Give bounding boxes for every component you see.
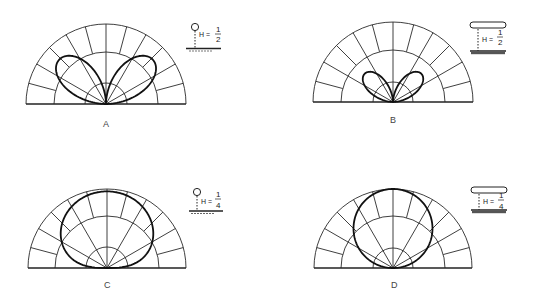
radiation-pattern-diagram: H = 1 2 H = 1 2 H = 1 4 H = 1 4 (0, 0, 535, 307)
grid-spoke (372, 25, 379, 52)
grid-spoke (119, 27, 126, 54)
grid-spoke (317, 248, 343, 255)
grid-spoke (443, 81, 470, 88)
grid-spoke (49, 47, 69, 67)
panel-c-label: C (104, 280, 111, 290)
grid-spoke (316, 81, 343, 88)
inset-b-horizontal-dipole-icon: H = 1 2 (470, 22, 506, 54)
panel-d-polar-plot (314, 189, 472, 268)
grid-spoke (443, 248, 469, 255)
grid-spoke (324, 62, 393, 102)
inset-b-height-label: H = (482, 36, 493, 43)
grid-spoke (373, 192, 380, 218)
grid-spoke (336, 45, 356, 65)
inset-d-fraction-numerator: 1 (499, 191, 504, 200)
inset-a-height-label: H = (199, 31, 210, 38)
grid-spoke (143, 47, 163, 67)
inset-c-fraction-numerator: 1 (216, 190, 221, 199)
grid-spoke (393, 200, 433, 268)
grid-spoke (107, 200, 147, 268)
inset-c-fraction-denominator: 4 (216, 201, 221, 210)
grid-spoke (107, 229, 175, 269)
panel-a-label: A (103, 119, 109, 129)
grid-spoke (31, 248, 57, 255)
grid-spoke (406, 192, 413, 218)
grid-spoke (106, 64, 175, 104)
grid-spoke (156, 83, 183, 90)
panel-b-polar-plot (313, 22, 473, 102)
grid-spoke (353, 33, 393, 102)
grid-spoke (37, 64, 106, 104)
inset-c-vertical-dipole-icon: H = 1 4 (189, 188, 223, 213)
inset-b-fraction-denominator: 2 (498, 38, 503, 47)
grid-spoke (157, 248, 183, 255)
inset-d-fraction-denominator: 4 (499, 202, 504, 211)
inset-a-fraction-numerator: 1 (216, 25, 221, 34)
grid-spoke (39, 229, 107, 269)
panel-a-polar-plot (26, 24, 186, 104)
grid-spoke (406, 25, 413, 52)
panel-d-label: D (391, 280, 398, 290)
grid-spoke (68, 200, 108, 268)
inset-b-fraction-numerator: 1 (498, 28, 503, 37)
inset-d-height-label: H = (483, 198, 494, 205)
grid-spoke (29, 83, 56, 90)
inset-a-vertical-dipole-icon: H = 1 2 (186, 23, 221, 51)
panel-b-label: B (390, 115, 396, 125)
grid-spoke (85, 27, 92, 54)
grid-spoke (393, 33, 433, 102)
grid-spoke (393, 62, 462, 102)
grid-spoke (354, 200, 394, 268)
panel-c-polar-plot (28, 189, 186, 268)
inset-c-height-label: H = (201, 198, 212, 205)
grid-spoke (430, 45, 450, 65)
inset-a-fraction-denominator: 2 (216, 35, 221, 44)
inset-d-horizontal-dipole-icon: H = 1 4 (471, 187, 507, 213)
